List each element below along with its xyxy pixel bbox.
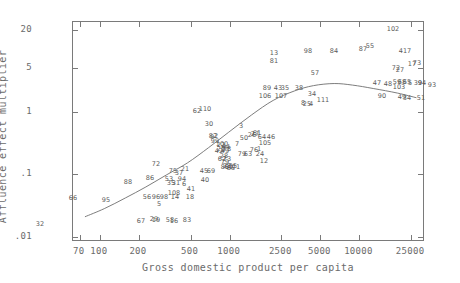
scatter-plot-figure: Affluence effect multiplier Gross domest… [0, 0, 460, 283]
y-axis-title: Affluence effect multiplier [0, 50, 8, 223]
data-point-label: 13 [270, 50, 278, 57]
y-tick-label: .1 [21, 168, 32, 178]
x-tick-label: 1000 [217, 246, 240, 256]
data-point-label: 73 [413, 60, 421, 67]
data-point-label: 106 [259, 93, 271, 100]
x-tick-mark [100, 22, 101, 27]
x-tick-mark [411, 22, 412, 27]
data-point-label: 72 [152, 161, 160, 168]
data-point-label: 90 [378, 93, 386, 100]
data-point-label: 21 [181, 166, 189, 173]
data-point-label: 40 [201, 177, 209, 184]
data-point-label: 69 [207, 168, 215, 175]
x-tick-mark [191, 235, 192, 240]
y-tick-label: .01 [15, 231, 32, 241]
data-point-label: 107 [275, 93, 287, 100]
y-tick-label: 1 [26, 106, 32, 116]
data-point-label: 7 [235, 141, 239, 148]
y-tick-mark [418, 237, 423, 238]
x-tick-label: 5000 [308, 246, 331, 256]
plot-frame: 3266956756969851929881081418581683865335… [72, 21, 424, 241]
x-tick-label: 25000 [396, 246, 425, 256]
data-point-label: 18 [186, 194, 194, 201]
data-point-label: 111 [317, 97, 329, 104]
data-point-label: 44 [222, 144, 230, 151]
data-point-label: 84 [330, 48, 338, 55]
x-tick-label: 70 [73, 246, 84, 256]
data-point-label: 93 [428, 82, 436, 89]
data-point-label: 59 [393, 79, 401, 86]
data-point-label: 81 [270, 58, 278, 65]
x-tick-label: 200 [129, 246, 146, 256]
y-tick-label: 20 [21, 24, 32, 34]
y-tick-mark [418, 112, 423, 113]
data-point-label: 89 [263, 85, 271, 92]
x-tick-mark [139, 22, 140, 27]
x-tick-mark [230, 22, 231, 27]
x-tick-mark [139, 235, 140, 240]
y-tick-mark [73, 68, 78, 69]
data-point-label: 12 [260, 158, 268, 165]
data-point-label: 14 [171, 194, 179, 201]
y-tick-mark [418, 30, 423, 31]
data-point-label: 34 [403, 95, 411, 102]
x-tick-label: 10000 [344, 246, 373, 256]
x-tick-mark [230, 235, 231, 240]
data-point-label: 6 [182, 181, 186, 188]
x-tick-mark [281, 22, 282, 27]
data-point-label: 3 [239, 123, 243, 130]
y-tick-mark [418, 174, 423, 175]
y-tick-mark [73, 237, 78, 238]
data-point-label: 47 [373, 80, 381, 87]
data-point-label: 98 [304, 48, 312, 55]
data-point-label: 2 [214, 133, 218, 140]
x-tick-mark [359, 235, 360, 240]
data-point-label: 5 [408, 80, 412, 87]
data-point-label: 79 [221, 159, 229, 166]
y-tick-mark [73, 174, 78, 175]
x-tick-label: 100 [90, 246, 107, 256]
data-point-label: 38 [295, 85, 303, 92]
data-point-label: 35 [281, 85, 289, 92]
y-tick-mark [73, 112, 78, 113]
data-point-label: 55 [366, 43, 374, 50]
x-tick-label: 2500 [269, 246, 292, 256]
data-point-label: 110 [199, 106, 211, 113]
data-point-label: 34 [308, 91, 316, 98]
data-point-label: 27 [396, 67, 404, 74]
x-axis-title: Gross domestic product per capita [142, 262, 354, 273]
data-point-label: 51 [417, 95, 425, 102]
data-point-label: 29 [150, 216, 158, 223]
data-point-label: 16 [170, 218, 178, 225]
data-point-label: 95 [102, 197, 110, 204]
y-tick-label: 5 [26, 62, 32, 72]
data-point-label: 41 [187, 186, 195, 193]
data-point-label: 83 [183, 217, 191, 224]
data-point-label: 102 [387, 26, 399, 33]
data-point-label: 67 [137, 218, 145, 225]
x-tick-mark [320, 235, 321, 240]
data-point-label: 32 [36, 221, 44, 228]
x-tick-mark [281, 235, 282, 240]
x-tick-mark [80, 22, 81, 27]
data-point-label: 94 [418, 80, 426, 87]
x-tick-mark [359, 22, 360, 27]
data-point-label: 79 [238, 151, 246, 158]
x-tick-mark [100, 235, 101, 240]
data-point-label: 4 [309, 101, 313, 108]
data-point-label: 88 [124, 179, 132, 186]
x-tick-mark [320, 22, 321, 27]
data-point-label: 56 [143, 194, 151, 201]
data-point-label: 417 [399, 48, 411, 55]
y-tick-mark [73, 30, 78, 31]
data-point-label: 57 [311, 70, 319, 77]
data-point-label: 48 [384, 81, 392, 88]
x-tick-label: 500 [181, 246, 198, 256]
data-point-label: 66 [69, 195, 77, 202]
data-point-label: 86 [146, 175, 154, 182]
x-tick-mark [191, 22, 192, 27]
x-tick-mark [411, 235, 412, 240]
data-point-label: 30 [205, 121, 213, 128]
x-tick-mark [80, 235, 81, 240]
data-point-label: 5 [157, 201, 161, 208]
